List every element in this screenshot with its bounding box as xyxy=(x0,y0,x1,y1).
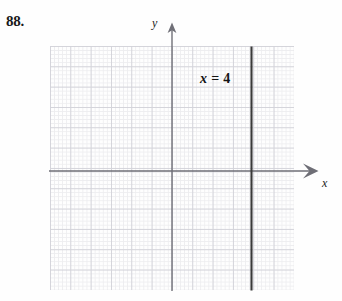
y-axis-label: y xyxy=(152,16,157,31)
equation-value: 4 xyxy=(223,71,230,86)
equation-operator: = xyxy=(211,71,219,86)
equation-variable: x xyxy=(200,71,207,86)
x-axis-label: x xyxy=(322,176,327,191)
figure-88: 88. y x x = 4 xyxy=(0,0,342,301)
axes-and-line xyxy=(0,0,342,301)
equation-annotation: x = 4 xyxy=(200,71,231,87)
coordinate-graph: y x x = 4 xyxy=(0,0,342,301)
